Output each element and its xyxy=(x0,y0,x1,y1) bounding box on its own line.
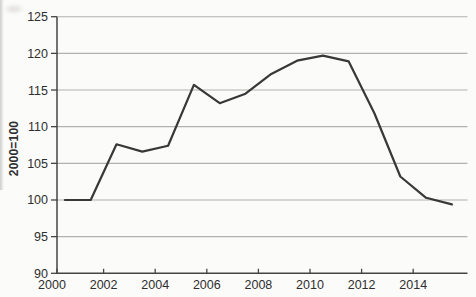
x-tick-label: 2010 xyxy=(296,278,324,292)
y-tick-label: 110 xyxy=(28,120,48,134)
x-tick-label: 2002 xyxy=(90,278,118,292)
y-tick-label: 95 xyxy=(34,230,48,244)
x-tick-label: 2006 xyxy=(193,278,221,292)
y-tick-label: 105 xyxy=(27,157,48,171)
y-tick-label: 115 xyxy=(28,84,48,98)
x-tick-label: 2012 xyxy=(348,278,376,292)
x-tick-label: 2014 xyxy=(399,278,427,292)
y-tick-label: 125 xyxy=(27,10,48,24)
y-tick-label: 100 xyxy=(27,193,48,207)
data-series-line xyxy=(65,56,452,205)
x-tick-label: 2000 xyxy=(38,278,66,292)
x-tick-label: 2004 xyxy=(141,278,169,292)
line-chart-figure: 2000=100 9095100105110115120125200020022… xyxy=(0,0,476,297)
x-tick-label: 2008 xyxy=(244,278,272,292)
plot-area: 9095100105110115120125200020022004200620… xyxy=(0,0,476,297)
y-tick-label: 120 xyxy=(27,47,48,61)
